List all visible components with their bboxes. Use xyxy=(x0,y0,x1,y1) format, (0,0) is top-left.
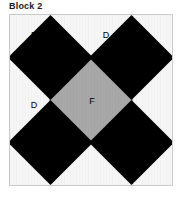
block-diagram-frame: E D D F xyxy=(9,14,173,186)
block-diagram-canvas xyxy=(10,15,172,185)
quilt-block-figure: Block 2 E D D F xyxy=(0,0,181,202)
page-title: Block 2 xyxy=(9,1,42,12)
